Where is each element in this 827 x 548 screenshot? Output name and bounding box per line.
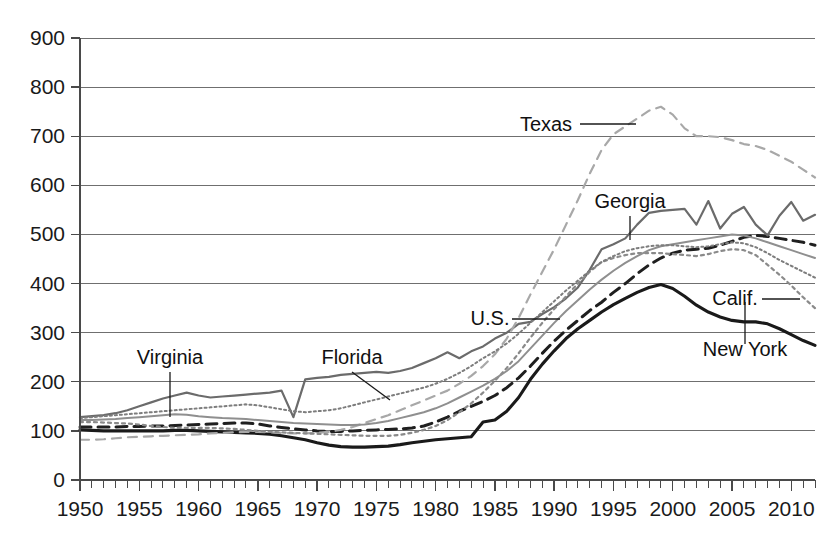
x-tick-label: 2005 [709, 497, 756, 520]
series-label-virginia: Virginia [137, 346, 204, 368]
y-tick-label: 100 [30, 419, 65, 442]
x-tick-label: 1995 [590, 497, 637, 520]
x-tick-label: 1975 [353, 497, 400, 520]
x-tick-label: 1990 [531, 497, 578, 520]
y-tick-label: 0 [53, 468, 65, 491]
x-tick-label: 1980 [412, 497, 459, 520]
chart-background [0, 0, 827, 548]
x-tick-label: 1985 [472, 497, 519, 520]
series-label-georgia: Georgia [594, 190, 666, 212]
x-tick-label: 1960 [175, 497, 222, 520]
series-label-texas: Texas [520, 113, 572, 135]
series-label-florida: Florida [321, 346, 383, 368]
y-tick-label: 900 [30, 26, 65, 49]
y-tick-label: 300 [30, 321, 65, 344]
y-tick-label: 200 [30, 370, 65, 393]
x-tick-label: 1950 [57, 497, 104, 520]
y-tick-label: 400 [30, 272, 65, 295]
line-chart: 0100200300400500600700800900 19501955196… [0, 0, 827, 548]
series-label-calif: Calif. [712, 287, 758, 309]
x-tick-label: 2010 [768, 497, 815, 520]
series-label-u-s: U.S. [471, 307, 510, 329]
x-tick-label: 1955 [116, 497, 163, 520]
x-tick-label: 1965 [234, 497, 281, 520]
y-tick-label: 500 [30, 222, 65, 245]
x-tick-label: 2000 [649, 497, 696, 520]
y-tick-label: 600 [30, 173, 65, 196]
y-tick-label: 800 [30, 75, 65, 98]
y-tick-label: 700 [30, 124, 65, 147]
chart-canvas: 0100200300400500600700800900 19501955196… [0, 0, 827, 548]
series-label-new-york: New York [703, 338, 788, 360]
x-tick-label: 1970 [294, 497, 341, 520]
